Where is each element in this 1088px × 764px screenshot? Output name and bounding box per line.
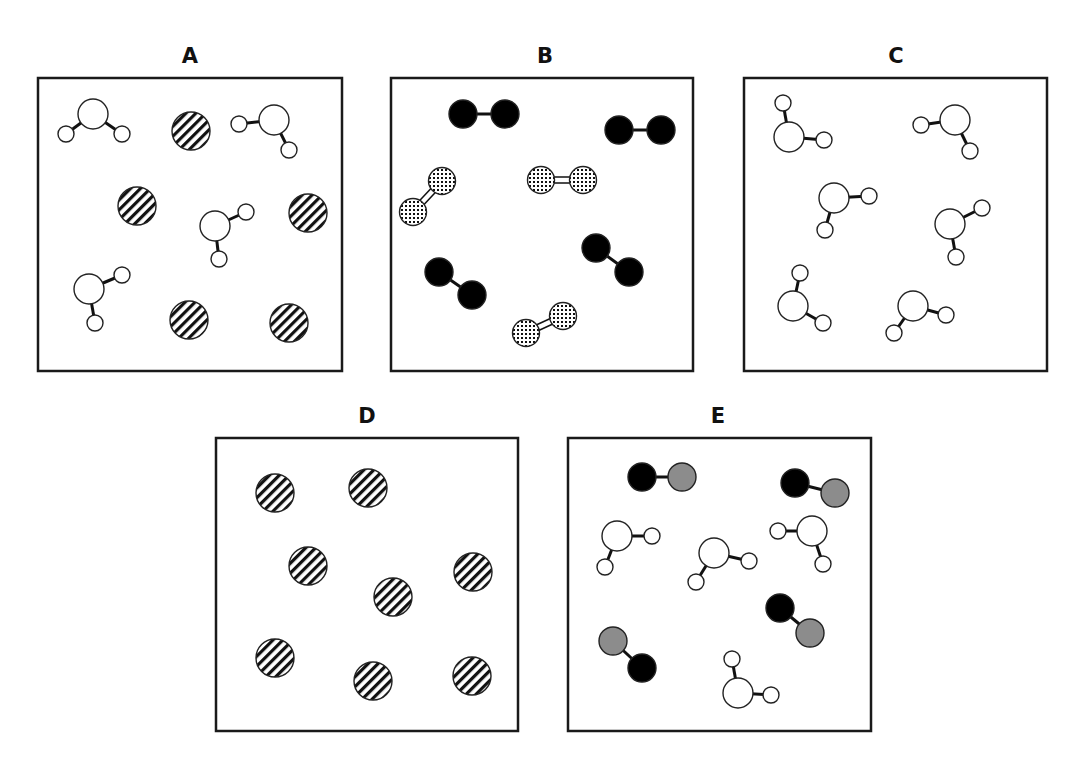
oxygen-atom	[778, 291, 808, 321]
hydrogen-atom	[938, 307, 954, 323]
hydrogen-atom	[913, 117, 929, 133]
hydrogen-atom	[770, 523, 786, 539]
striped-atom	[453, 657, 491, 695]
oxygen-atom	[898, 291, 928, 321]
striped-atom	[256, 639, 294, 677]
dotted-atom	[513, 320, 540, 347]
striped-atom	[349, 469, 387, 507]
hydrogen-atom	[644, 528, 660, 544]
striped-atom	[374, 578, 412, 616]
hydrogen-atom	[87, 315, 103, 331]
oxygen-atom	[797, 516, 827, 546]
hydrogen-atom	[815, 315, 831, 331]
oxygen-atom	[200, 211, 230, 241]
panel-label-b: B	[537, 44, 553, 68]
atom-striped-molecule	[256, 639, 294, 677]
striped-atom	[289, 194, 327, 232]
hydrogen-atom	[281, 142, 297, 158]
hydrogen-atom	[724, 651, 740, 667]
black-atom	[781, 469, 809, 497]
striped-atom	[170, 301, 208, 339]
hydrogen-atom	[741, 553, 757, 569]
atom-striped-molecule	[453, 657, 491, 695]
hydrogen-atom	[792, 265, 808, 281]
hydrogen-atom	[597, 559, 613, 575]
hydrogen-atom	[962, 143, 978, 159]
atom-striped-molecule	[170, 301, 208, 339]
oxygen-atom	[259, 105, 289, 135]
atom-striped-molecule	[270, 304, 308, 342]
panel-b-box	[391, 78, 693, 371]
hydrogen-atom	[974, 200, 990, 216]
dotted-atom	[570, 167, 597, 194]
striped-atom	[454, 553, 492, 591]
particle-diagram: A B C D E	[0, 0, 1088, 764]
dotted-atom	[550, 303, 577, 330]
hydrogen-atom	[815, 556, 831, 572]
black-atom	[605, 116, 633, 144]
atom-striped-molecule	[454, 553, 492, 591]
hydrogen-atom	[948, 249, 964, 265]
dotted-atom	[429, 168, 456, 195]
dotted-atom	[528, 167, 555, 194]
striped-atom	[289, 547, 327, 585]
black-atom	[425, 258, 453, 286]
gray-atom	[821, 479, 849, 507]
panel-label-c: C	[888, 44, 903, 68]
panel-label-a: A	[182, 44, 199, 68]
oxygen-atom	[774, 122, 804, 152]
atom-striped-molecule	[374, 578, 412, 616]
hydrogen-atom	[817, 222, 833, 238]
atom-striped-molecule	[289, 547, 327, 585]
oxygen-atom	[699, 538, 729, 568]
black-atom	[449, 100, 477, 128]
hydrogen-atom	[58, 126, 74, 142]
black-atom	[491, 100, 519, 128]
hydrogen-atom	[886, 325, 902, 341]
dotted-atom	[400, 199, 427, 226]
hydrogen-atom	[775, 95, 791, 111]
oxygen-atom	[940, 105, 970, 135]
panel-c: C	[744, 44, 1047, 371]
black-atom	[582, 234, 610, 262]
hydrogen-atom	[688, 574, 704, 590]
hydrogen-atom	[861, 188, 877, 204]
hydrogen-atom	[211, 251, 227, 267]
atom-striped-molecule	[289, 194, 327, 232]
panel-label-e: E	[711, 404, 725, 428]
atom-striped-molecule	[118, 187, 156, 225]
striped-atom	[354, 662, 392, 700]
black-atom	[628, 654, 656, 682]
atom-striped-molecule	[354, 662, 392, 700]
panel-a: A	[38, 44, 342, 371]
black-atom	[628, 463, 656, 491]
gray-atom	[599, 627, 627, 655]
black-atom	[458, 281, 486, 309]
oxygen-atom	[935, 209, 965, 239]
gray-atom	[796, 619, 824, 647]
oxygen-atom	[78, 99, 108, 129]
striped-atom	[270, 304, 308, 342]
hydrogen-atom	[114, 126, 130, 142]
black-atom	[615, 258, 643, 286]
panel-e: E	[568, 404, 871, 731]
panel-label-d: D	[358, 404, 375, 428]
oxygen-atom	[723, 678, 753, 708]
panel-d: D	[216, 404, 518, 731]
gray-atom	[668, 463, 696, 491]
black-atom	[647, 116, 675, 144]
atom-striped-molecule	[349, 469, 387, 507]
panel-b: B	[391, 44, 693, 371]
hydrogen-atom	[763, 687, 779, 703]
hydrogen-atom	[231, 116, 247, 132]
striped-atom	[256, 474, 294, 512]
black-atom	[766, 594, 794, 622]
striped-atom	[172, 112, 210, 150]
striped-atom	[118, 187, 156, 225]
hydrogen-atom	[238, 204, 254, 220]
oxygen-atom	[74, 274, 104, 304]
oxygen-atom	[602, 521, 632, 551]
hydrogen-atom	[816, 132, 832, 148]
atom-striped-molecule	[256, 474, 294, 512]
oxygen-atom	[819, 183, 849, 213]
